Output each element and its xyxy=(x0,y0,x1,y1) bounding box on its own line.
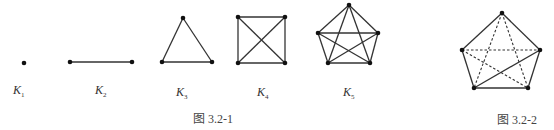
vertex xyxy=(500,11,505,16)
edge-k5 xyxy=(328,33,378,63)
vertex xyxy=(460,48,465,53)
edge-k5 xyxy=(349,5,370,63)
diagram-canvas xyxy=(0,0,554,130)
label-k2: K2 xyxy=(95,83,107,99)
label-k5: K5 xyxy=(343,85,355,101)
vertex xyxy=(538,48,543,53)
label-k4: K4 xyxy=(257,85,269,101)
vertex-k5 xyxy=(347,3,352,8)
vertex-k3 xyxy=(181,16,186,21)
vertex-k4 xyxy=(236,61,241,66)
caption-figure-3-2-2: 图 3.2-2 xyxy=(497,110,537,128)
vertex-k5 xyxy=(376,31,381,36)
vertex-k5 xyxy=(316,31,321,36)
vertex-k3 xyxy=(160,60,165,65)
edge-k3 xyxy=(183,18,212,62)
label-k1: K1 xyxy=(13,83,25,99)
vertex-k1 xyxy=(22,61,27,66)
solid-edge xyxy=(502,13,540,50)
vertex xyxy=(472,86,477,91)
caption-figure-3-2-1: 图 3.2-1 xyxy=(193,109,233,127)
label-k3: K3 xyxy=(176,85,188,101)
vertex-k5 xyxy=(326,61,331,66)
vertex xyxy=(526,86,531,91)
vertex-k4 xyxy=(236,15,241,20)
edge-k5 xyxy=(318,33,370,63)
figure-3-2-2-graph xyxy=(460,11,543,91)
vertex-k4 xyxy=(283,61,288,66)
edge-k5 xyxy=(349,5,378,33)
dashed-edge xyxy=(474,13,502,88)
dashed-edge xyxy=(502,13,528,88)
vertex-k2 xyxy=(68,60,73,65)
solid-edge xyxy=(462,50,474,88)
solid-edge xyxy=(462,13,502,50)
vertex-k4 xyxy=(283,15,288,20)
vertex-k3 xyxy=(210,60,215,65)
edge-k3 xyxy=(162,18,183,62)
figure-3-2-1-graphs xyxy=(22,3,381,66)
vertex-k2 xyxy=(130,60,135,65)
vertex-k5 xyxy=(368,61,373,66)
